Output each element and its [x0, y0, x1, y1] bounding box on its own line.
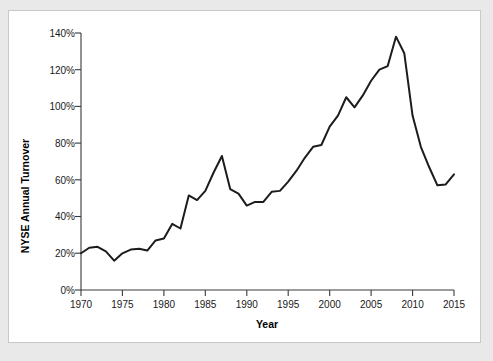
- x-tick-label-1995: 1995: [277, 299, 300, 310]
- x-tick-label-2005: 2005: [360, 299, 383, 310]
- y-tick-label-20: 20%: [55, 248, 75, 259]
- data-series-line: [81, 37, 454, 261]
- x-tick-label-2015: 2015: [443, 299, 466, 310]
- x-tick-label-2000: 2000: [319, 299, 342, 310]
- x-axis-title: Year: [256, 318, 278, 330]
- y-tick-label-140: 140%: [49, 28, 75, 39]
- y-axis-title: NYSE Annual Turnover: [19, 139, 31, 253]
- y-tick-label-100: 100%: [49, 101, 75, 112]
- x-tick-label-2010: 2010: [401, 299, 424, 310]
- x-tick-label-1985: 1985: [194, 299, 217, 310]
- x-tick-label-1990: 1990: [236, 299, 259, 310]
- figure-frame: NYSE Annual Turnover 140% 120% 100% 80% …: [8, 10, 481, 343]
- y-tick-label-80: 80%: [55, 138, 75, 149]
- y-tick-label-40: 40%: [55, 211, 75, 222]
- x-tick-label-1970: 1970: [70, 299, 93, 310]
- x-tick-label-1975: 1975: [111, 299, 134, 310]
- line-chart: NYSE Annual Turnover 140% 120% 100% 80% …: [9, 11, 482, 344]
- x-tick-label-1980: 1980: [153, 299, 176, 310]
- y-tick-label-60: 60%: [55, 175, 75, 186]
- y-tick-label-120: 120%: [49, 65, 75, 76]
- y-tick-label-0: 0%: [61, 285, 76, 296]
- chart-canvas: NYSE Annual Turnover 140% 120% 100% 80% …: [9, 11, 480, 342]
